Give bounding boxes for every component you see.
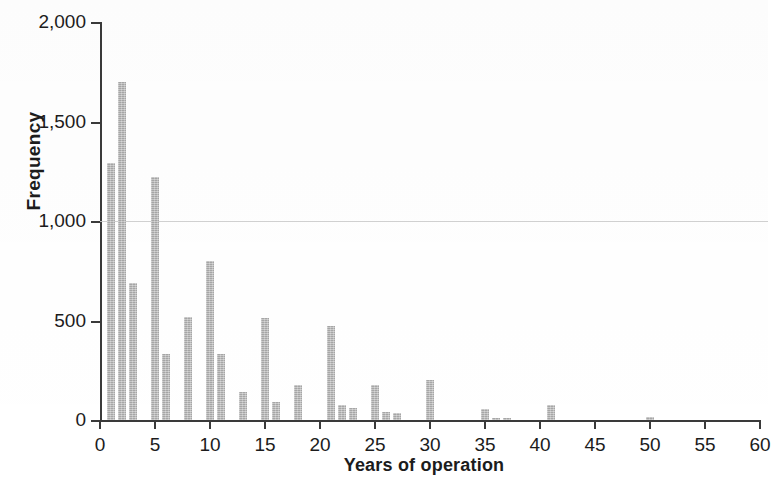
x-tick-mark bbox=[99, 420, 101, 429]
x-tick-mark bbox=[594, 420, 596, 429]
y-tick-mark bbox=[91, 321, 100, 323]
plot-area: 05001,0001,5002,000 05101520253035404550… bbox=[100, 22, 760, 420]
bar bbox=[294, 385, 303, 420]
x-tick-label: 35 bbox=[474, 434, 495, 456]
bar bbox=[492, 418, 501, 420]
bar bbox=[338, 405, 347, 420]
bar bbox=[382, 412, 391, 420]
x-tick-mark bbox=[319, 420, 321, 429]
x-tick-label: 40 bbox=[529, 434, 550, 456]
bar bbox=[206, 261, 215, 420]
x-tick-label: 55 bbox=[694, 434, 715, 456]
bar bbox=[481, 409, 490, 420]
y-tick-label: 2,000 bbox=[38, 11, 86, 33]
x-tick-label: 50 bbox=[639, 434, 660, 456]
bar bbox=[393, 413, 402, 420]
x-tick-mark bbox=[539, 420, 541, 429]
x-tick-label: 60 bbox=[749, 434, 770, 456]
x-tick-mark bbox=[429, 420, 431, 429]
y-tick-label: 0 bbox=[75, 409, 86, 431]
x-tick-label: 5 bbox=[150, 434, 161, 456]
bar bbox=[272, 402, 281, 420]
x-tick-mark bbox=[209, 420, 211, 429]
x-tick-label: 10 bbox=[199, 434, 220, 456]
bar bbox=[239, 392, 248, 420]
x-tick-mark bbox=[759, 420, 761, 429]
x-axis-title: Years of operation bbox=[0, 455, 768, 476]
x-tick-label: 0 bbox=[95, 434, 106, 456]
bar bbox=[261, 318, 270, 420]
bar bbox=[118, 82, 127, 420]
bar bbox=[184, 317, 193, 420]
bar bbox=[503, 418, 512, 420]
bar bbox=[217, 354, 226, 420]
x-tick-label: 30 bbox=[419, 434, 440, 456]
y-tick-label: 500 bbox=[54, 310, 86, 332]
x-tick-mark bbox=[484, 420, 486, 429]
gridline-1000 bbox=[100, 221, 768, 222]
bar bbox=[349, 408, 358, 420]
bar bbox=[107, 163, 116, 420]
x-tick-label: 15 bbox=[254, 434, 275, 456]
bar bbox=[327, 326, 336, 420]
bar bbox=[371, 385, 380, 420]
bar bbox=[151, 177, 160, 420]
x-tick-label: 20 bbox=[309, 434, 330, 456]
y-tick-mark bbox=[91, 122, 100, 124]
x-tick-label: 25 bbox=[364, 434, 385, 456]
y-tick-label: 1,500 bbox=[38, 111, 86, 133]
x-tick-label: 45 bbox=[584, 434, 605, 456]
x-tick-mark bbox=[374, 420, 376, 429]
x-tick-mark bbox=[649, 420, 651, 429]
x-tick-mark bbox=[264, 420, 266, 429]
bar bbox=[129, 283, 138, 420]
bar bbox=[162, 354, 171, 420]
y-tick-mark bbox=[91, 22, 100, 24]
bar bbox=[547, 405, 556, 420]
x-tick-mark bbox=[704, 420, 706, 429]
bar bbox=[426, 380, 435, 420]
y-tick-mark bbox=[91, 221, 100, 223]
x-tick-mark bbox=[154, 420, 156, 429]
y-tick-label: 1,000 bbox=[38, 210, 86, 232]
